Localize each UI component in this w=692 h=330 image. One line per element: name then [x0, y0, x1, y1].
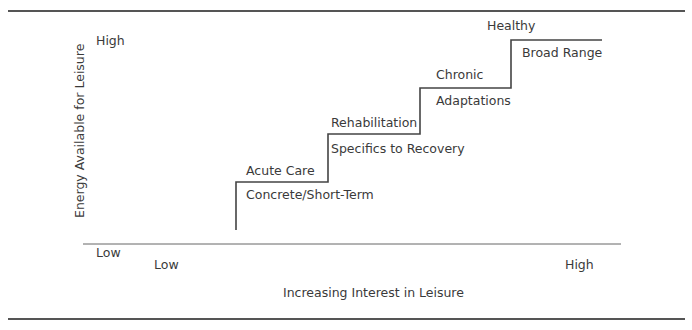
stage-healthy-subtitle: Broad Range	[522, 46, 602, 60]
stage-chronic-subtitle: Adaptations	[436, 94, 511, 108]
y-axis-label: Energy Available for Leisure	[72, 44, 87, 218]
y-axis-low: Low	[96, 246, 121, 260]
stage-acute-title: Acute Care	[246, 164, 315, 178]
stage-acute-subtitle: Concrete/Short-Term	[246, 188, 374, 202]
stage-rehab-subtitle: Specifics to Recovery	[331, 142, 465, 156]
stage-rehab-title: Rehabilitation	[331, 116, 417, 130]
stage-chronic-title: Chronic	[436, 68, 483, 82]
x-axis-low: Low	[154, 258, 179, 272]
x-axis-high: High	[565, 258, 594, 272]
y-axis-high: High	[96, 34, 125, 48]
x-axis-label: Increasing Interest in Leisure	[283, 286, 464, 300]
stage-healthy-title: Healthy	[487, 19, 535, 33]
